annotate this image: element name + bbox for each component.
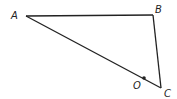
- segment-bc: [153, 15, 161, 88]
- triangle-diagram: A B C O: [0, 0, 177, 99]
- segment-ab: [26, 15, 153, 16]
- segment-ca: [26, 16, 161, 88]
- point-o-dot: [142, 76, 146, 80]
- vertex-label-c: C: [164, 88, 171, 99]
- vertex-label-b: B: [155, 4, 162, 15]
- vertex-label-a: A: [10, 10, 18, 21]
- point-label-o: O: [133, 80, 141, 91]
